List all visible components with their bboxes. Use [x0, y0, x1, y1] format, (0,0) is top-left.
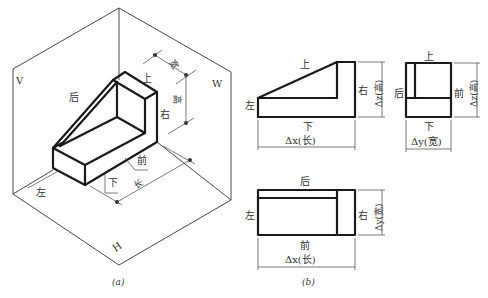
caption-a: (a) [112, 277, 125, 287]
front-view-left-label: 左 [245, 99, 255, 111]
front-view-dim-z: Δz(高) [373, 80, 384, 107]
front-view-right-label: 右 [358, 84, 368, 96]
top-view-dim-x: Δx(长) [285, 254, 316, 265]
top-view-top-label: 后 [300, 176, 310, 187]
projection-figure: V W H 上 后 右 前 下 左 宽 高 长 (a) 上 [0, 0, 488, 298]
w-h-axis-line-right [157, 142, 231, 200]
face-top-label: 上 [142, 73, 152, 84]
face-front-label: 前 [137, 154, 147, 166]
front-view-top-label: 上 [300, 59, 310, 70]
figure-b: 上 下 左 右 Δx(长) Δz(高) 上 下 后 前 Δy(宽) Δz(高) [245, 51, 480, 287]
face-bottom-label: 下 [108, 177, 118, 188]
front-view: 上 下 左 右 Δx(长) Δz(高) [245, 59, 385, 150]
caption-b: (b) [302, 277, 315, 287]
side-view-dim-y: Δy(宽) [411, 135, 442, 147]
plane-h-label: H [110, 240, 124, 254]
side-view-back-label: 后 [394, 88, 404, 99]
side-view-top-label: 上 [424, 51, 434, 62]
top-view-right-label: 右 [358, 209, 368, 221]
top-view: 后 前 左 右 Δx(长) Δy(宽) [245, 176, 385, 270]
face-right-label: 右 [160, 108, 170, 120]
dim-length-label: 长 [131, 177, 144, 191]
side-view-dim-z: Δz(高) [468, 80, 479, 107]
top-view-left-label: 左 [245, 209, 255, 221]
face-left-label: 左 [36, 186, 46, 198]
v-h-axis-line-left [13, 170, 53, 194]
face-back-label: 后 [69, 92, 79, 103]
front-view-dim-x: Δx(长) [285, 135, 316, 146]
figure-a: V W H 上 后 右 前 下 左 宽 高 长 (a) [13, 8, 231, 287]
projection-hexagon [13, 8, 231, 265]
dim-height-label: 高 [172, 95, 183, 104]
side-view-front-label: 前 [454, 87, 464, 99]
dim-width-label: 宽 [167, 57, 181, 70]
top-view-bottom-label: 前 [300, 239, 310, 251]
isometric-object [53, 72, 157, 185]
top-view-dim-y: Δy(宽) [373, 203, 384, 231]
plane-w-label: W [212, 78, 223, 89]
side-view: 上 下 后 前 Δy(宽) Δz(高) [394, 51, 480, 152]
front-view-bottom-label: 下 [303, 121, 313, 132]
side-view-bottom-label: 下 [424, 121, 434, 132]
plane-v-label: V [15, 75, 24, 86]
